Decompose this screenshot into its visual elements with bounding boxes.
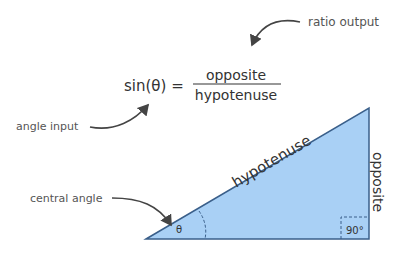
theta-label: θ bbox=[176, 224, 182, 235]
opposite-label: opposite bbox=[370, 152, 386, 212]
formula-lhs: sin(θ) = bbox=[124, 77, 184, 95]
angle-input-label: angle input bbox=[16, 120, 79, 133]
central-angle-arrow-icon bbox=[112, 198, 171, 225]
sine-diagram: ratio output sin(θ) = opposite hypotenus… bbox=[0, 0, 396, 255]
angle-input-arrow-icon bbox=[90, 105, 148, 128]
ratio-output-label: ratio output bbox=[308, 15, 379, 29]
ratio-output-arrow-icon bbox=[252, 21, 300, 45]
right-angle-label: 90° bbox=[346, 225, 364, 236]
central-angle-label: central angle bbox=[30, 192, 103, 205]
formula-numerator: opposite bbox=[206, 67, 266, 83]
formula-denominator: hypotenuse bbox=[195, 87, 277, 103]
